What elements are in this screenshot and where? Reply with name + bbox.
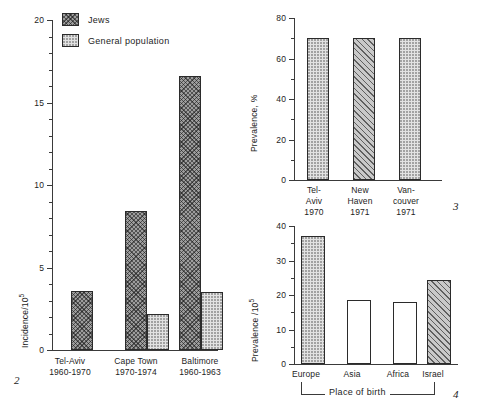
figure-3-prevalence-percent-chart: Prevalence, % 80 60 40 20 0 Tel- Aviv 19…: [240, 0, 484, 212]
fig3-plot-area: [294, 18, 442, 180]
fig3-ytlabel-40: 40: [266, 94, 286, 104]
fig2-xcat-baltimore-name: Baltimore: [164, 356, 236, 367]
fig4-bar-africa: [393, 302, 417, 364]
fig2-ytlabel-15: 15: [22, 98, 44, 108]
fig4-xcat-israel: Israel: [403, 369, 463, 380]
fig3-ytlabel-60: 60: [266, 54, 286, 64]
figure-2-incidence-chart: Jews General population Incidence/105 20…: [0, 0, 240, 409]
fig2-ytlabel-5: 5: [22, 263, 44, 273]
fig4-ytlabel-10: 10: [266, 325, 286, 335]
fig2-figure-number: 2: [14, 374, 20, 386]
fig2-bar-tel-aviv-jews: [71, 291, 93, 350]
fig4-plot-area: [294, 226, 458, 364]
fig3-xcat-vancouver-line1: Van-: [376, 185, 436, 196]
fig2-bar-cape-town-jews: [125, 211, 147, 350]
fig3-ytlabel-0: 0: [266, 175, 286, 185]
fig3-xcat-vancouver-line2: couver: [376, 196, 436, 207]
fig3-bar-tel-aviv: [307, 38, 329, 180]
fig3-bar-new-haven: [353, 38, 375, 180]
fig2-xcat-cape-town: Cape Town 1970-1974: [100, 356, 172, 378]
figure-4-prevalence-by-birthplace-chart: Prevalence /105 40 30 20 10 0 Europe Asi…: [240, 212, 484, 409]
fig4-ytlabel-40: 40: [266, 221, 286, 231]
fig3-ytick-0: [289, 180, 294, 181]
fig4-figure-number: 4: [453, 388, 459, 400]
fig4-ytlabel-0: 0: [266, 359, 286, 369]
fig2-bar-baltimore-general: [201, 292, 223, 350]
fig3-figure-number: 3: [453, 200, 459, 212]
fig2-ytlabel-0: 0: [22, 345, 44, 355]
fig2-ytlabel-10: 10: [22, 180, 44, 190]
fig2-xcat-tel-aviv-name: Tel-Aviv: [37, 356, 103, 367]
fig3-y-axis-label: Prevalence, %: [249, 95, 259, 152]
fig3-ytlabel-80: 80: [266, 13, 286, 23]
fig4-bar-europe: [301, 236, 325, 364]
fig2-x-axis: [52, 350, 218, 351]
fig2-xcat-cape-town-years: 1970-1974: [100, 367, 172, 378]
fig2-plot-area: [52, 20, 218, 350]
fig2-xcat-baltimore: Baltimore 1960-1963: [164, 356, 236, 378]
fig2-bar-baltimore-jews: [179, 76, 201, 350]
fig4-ytick-0: [289, 364, 294, 365]
fig4-bar-asia: [347, 300, 371, 364]
fig2-xcat-cape-town-name: Cape Town: [100, 356, 172, 367]
fig2-bar-cape-town-general: [147, 314, 169, 350]
fig2-ytlabel-20: 20: [22, 15, 44, 25]
fig3-x-axis: [294, 180, 442, 181]
fig4-place-of-birth-bracket: Place of birth: [301, 382, 435, 396]
fig2-ytick-0: [47, 350, 52, 351]
fig4-x-axis: [294, 364, 458, 365]
fig2-xcat-baltimore-years: 1960-1963: [164, 367, 236, 378]
fig4-x-axis-label: Place of birth: [325, 387, 390, 397]
fig4-bar-israel: [427, 280, 451, 365]
fig4-y-axis-label: Prevalence /105: [248, 299, 260, 362]
fig2-xcat-tel-aviv: Tel-Aviv 1960-1970: [37, 356, 103, 378]
fig2-y-axis-label: Incidence/105: [18, 294, 30, 348]
fig4-ytlabel-30: 30: [266, 256, 286, 266]
bracket-right-tick: [434, 382, 435, 395]
fig4-ytlabel-20: 20: [266, 290, 286, 300]
fig2-xcat-tel-aviv-years: 1960-1970: [37, 367, 103, 378]
fig3-ytlabel-20: 20: [266, 135, 286, 145]
fig3-bar-vancouver: [399, 38, 421, 180]
